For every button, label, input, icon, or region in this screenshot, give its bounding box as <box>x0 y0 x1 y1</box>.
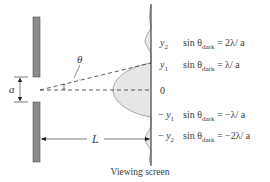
label-y2: y2 <box>159 37 168 51</box>
svg-text:− y1: − y1 <box>158 109 175 123</box>
svg-text:− y2: − y2 <box>158 130 175 144</box>
angle-label: θ <box>77 53 83 65</box>
distance-label: L <box>91 132 99 146</box>
upper-barrier <box>33 17 40 77</box>
screen-caption: Viewing screen <box>111 167 170 177</box>
label-neg-y1: − y1 <box>158 109 175 123</box>
intensity-pattern <box>113 5 151 165</box>
svg-text:y1: y1 <box>159 59 168 73</box>
label-y1: y1 <box>159 59 168 73</box>
equation-y2: sin θdark = 2λ/ a <box>183 37 245 51</box>
diffraction-diagram: a θ L y2 y1 0 − y1 − y2 sin θdark = 2λ/ … <box>0 0 270 182</box>
angle-marker <box>63 65 81 90</box>
equation-neg-y1: sin θdark = −λ/ a <box>183 109 246 123</box>
slit-width-label: a <box>9 83 15 95</box>
lower-barrier <box>33 102 40 162</box>
label-neg-y2: − y2 <box>158 130 175 144</box>
svg-text:y2: y2 <box>159 37 168 51</box>
equation-y1: sin θdark = λ/ a <box>183 59 240 73</box>
label-zero: 0 <box>160 85 165 96</box>
equation-neg-y2: sin θdark = −2λ/ a <box>183 130 251 144</box>
slit-width-dimension <box>14 77 28 102</box>
